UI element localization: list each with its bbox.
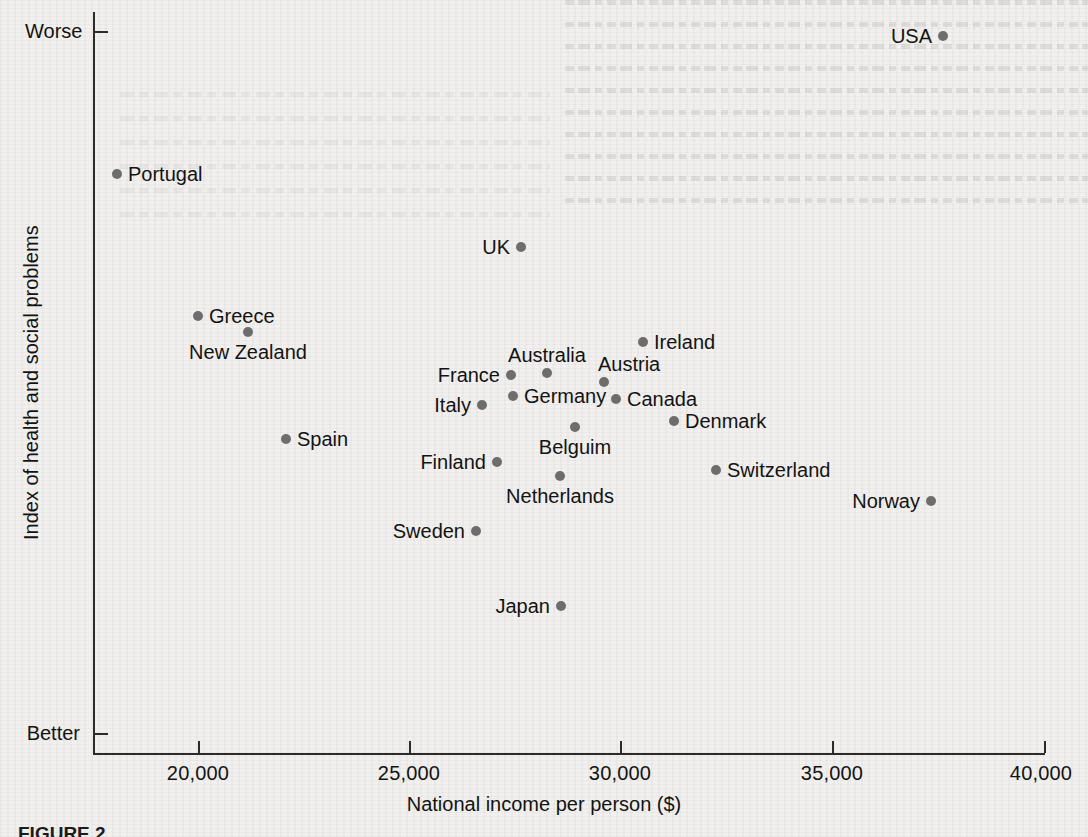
x-axis-tick-30000 [620,741,622,753]
data-point-sweden[interactable] [471,526,481,536]
x-axis-tick-40000 [1044,741,1046,753]
data-point-finland[interactable] [492,457,502,467]
data-point-label-spain: Spain [297,429,348,449]
figure-caption: FIGURE 2 [18,823,106,837]
data-point-usa[interactable] [938,31,948,41]
data-point-greece[interactable] [193,311,203,321]
data-point-label-norway: Norway [852,491,920,511]
x-axis-label-30000: 30,000 [589,762,651,785]
data-point-netherlands[interactable] [555,471,565,481]
x-axis-tick-25000 [409,741,411,753]
data-point-label-belguim: Belguim [539,437,611,457]
y-axis-tick-worse [95,31,108,33]
data-point-label-austria: Austria [598,354,660,374]
data-point-ireland[interactable] [638,337,648,347]
data-point-label-italy: Italy [434,395,471,415]
data-point-norway[interactable] [926,496,936,506]
scatter-plot: Worse Better Index of health and social … [0,0,1088,837]
x-axis-label-25000: 25,000 [378,762,440,785]
x-axis-label-20000: 20,000 [167,762,229,785]
data-point-label-australia: Australia [508,345,586,365]
data-point-label-uk: UK [482,237,510,257]
data-point-new-zealand[interactable] [243,327,253,337]
x-axis-tick-35000 [832,741,834,753]
data-point-uk[interactable] [516,242,526,252]
data-point-label-usa: USA [891,26,932,46]
data-point-label-denmark: Denmark [685,411,766,431]
data-point-label-japan: Japan [496,596,551,616]
data-point-label-ireland: Ireland [654,332,715,352]
data-point-italy[interactable] [477,400,487,410]
data-point-label-germany: Germany [524,386,606,406]
data-point-denmark[interactable] [669,416,679,426]
data-point-belguim[interactable] [570,422,580,432]
x-axis-title: National income per person ($) [0,793,1088,816]
data-point-label-greece: Greece [209,306,275,326]
x-axis-line [93,753,1045,755]
data-point-label-sweden: Sweden [393,521,465,541]
data-point-france[interactable] [506,370,516,380]
data-point-switzerland[interactable] [711,465,721,475]
data-point-japan[interactable] [556,601,566,611]
y-axis-line [93,12,95,755]
y-axis-label-worse: Worse [25,20,80,43]
data-point-label-canada: Canada [627,389,697,409]
data-point-spain[interactable] [281,434,291,444]
data-point-canada[interactable] [611,394,621,404]
data-point-label-portugal: Portugal [128,164,203,184]
y-axis-tick-better [95,733,108,735]
y-axis-label-better: Better [25,722,80,745]
x-axis-label-40000: 40,000 [1010,762,1072,785]
data-point-label-switzerland: Switzerland [727,460,830,480]
y-axis-title: Index of health and social problems [20,225,43,540]
x-axis-label-35000: 35,000 [801,762,863,785]
data-point-label-new-zealand: New Zealand [189,342,307,362]
data-point-australia[interactable] [542,368,552,378]
data-point-portugal[interactable] [112,169,122,179]
data-point-label-finland: Finland [420,452,486,472]
data-point-label-france: France [438,365,500,385]
x-axis-tick-20000 [198,741,200,753]
data-point-label-netherlands: Netherlands [506,486,614,506]
data-point-germany[interactable] [508,391,518,401]
